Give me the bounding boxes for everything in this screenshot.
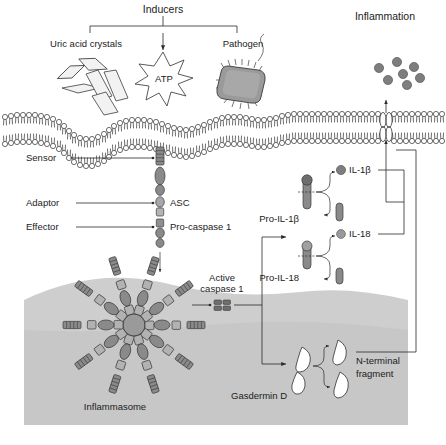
- label-n-terminal-fragment-line1: N-terminal: [356, 355, 400, 366]
- label-active-caspase-line1: Active: [209, 272, 235, 283]
- il-18-prodomain-glyph: [336, 268, 343, 284]
- label-il-1b: IL-1β: [349, 164, 371, 175]
- inducers-title: Inducers: [143, 3, 183, 15]
- label-active-caspase-line2: caspase 1: [200, 283, 243, 294]
- label-pro-il-18: Pro-IL-18: [259, 272, 299, 283]
- label-adaptor: Adaptor: [26, 197, 59, 208]
- label-pathogen: Pathogen: [223, 38, 264, 49]
- label-inflammasome: Inflammasome: [84, 401, 146, 412]
- il-18-mature-glyph: [337, 230, 346, 239]
- label-effector: Effector: [26, 221, 59, 232]
- label-il-18: IL-18: [349, 228, 371, 239]
- label-uric-acid-crystals: Uric acid crystals: [50, 38, 122, 49]
- label-gasdermin-d: Gasdermin D: [231, 390, 287, 401]
- label-n-terminal-fragment-line2: fragment: [356, 368, 394, 379]
- il-1b-prodomain-glyph: [336, 203, 343, 221]
- label-inflammation: Inflammation: [355, 10, 415, 22]
- label-pro-caspase-1: Pro-caspase 1: [170, 221, 231, 232]
- figure-canvas: Inducers Uric acid crystals Pathogen Inf…: [0, 0, 446, 445]
- label-atp: ATP: [155, 73, 173, 84]
- label-sensor: Sensor: [26, 152, 56, 163]
- label-asc: ASC: [170, 197, 190, 208]
- il-1b-mature-glyph: [336, 165, 345, 174]
- label-pro-il-1b: Pro-IL-1β: [259, 213, 299, 224]
